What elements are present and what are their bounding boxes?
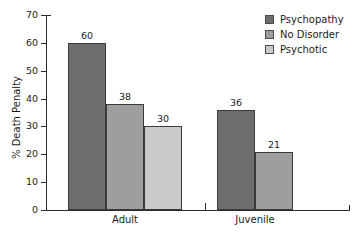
- bar-value-label: 60: [68, 31, 106, 41]
- bar-juvenile-psychopathy: [217, 110, 255, 210]
- legend-swatch-icon: [265, 45, 274, 54]
- bar-value-label: 38: [106, 92, 144, 102]
- legend-item: Psychopathy: [265, 12, 344, 26]
- x-axis-line: [46, 210, 350, 211]
- bar-chart-figure: % Death Penalty 010203040506070 60383036…: [0, 0, 359, 233]
- y-axis-tick-label: 60: [4, 38, 38, 48]
- bar-value-label: 36: [217, 98, 255, 108]
- legend-item: Psychotic: [265, 42, 344, 56]
- y-axis-title: % Death Penalty: [11, 58, 22, 178]
- bar-value-label: 21: [255, 140, 293, 150]
- bar-adult-no-disorder: [106, 104, 144, 210]
- y-axis-tick-label: 30: [4, 122, 38, 132]
- bar-adult-psychotic: [144, 126, 182, 210]
- y-axis-tick-label: 50: [4, 66, 38, 76]
- y-axis-tick-label: 70: [4, 10, 38, 20]
- chart-legend: PsychopathyNo DisorderPsychotic: [265, 12, 344, 57]
- y-axis-tick-label: 10: [4, 177, 38, 187]
- y-axis-tick-label: 40: [4, 94, 38, 104]
- legend-label: Psychotic: [280, 44, 327, 55]
- category-label-adult: Adult: [85, 214, 165, 225]
- bar-juvenile-no-disorder: [255, 152, 293, 211]
- legend-swatch-icon: [265, 15, 274, 24]
- legend-item: No Disorder: [265, 27, 344, 41]
- legend-swatch-icon: [265, 30, 274, 39]
- legend-label: Psychopathy: [280, 14, 344, 25]
- y-axis-tick: [41, 210, 47, 211]
- legend-label: No Disorder: [280, 29, 339, 40]
- y-axis-tick-label: 20: [4, 150, 38, 160]
- y-axis-tick-label: 0: [4, 205, 38, 215]
- bar-adult-psychopathy: [68, 43, 106, 210]
- bar-value-label: 30: [144, 114, 182, 124]
- category-label-juvenile: Juvenile: [215, 214, 295, 225]
